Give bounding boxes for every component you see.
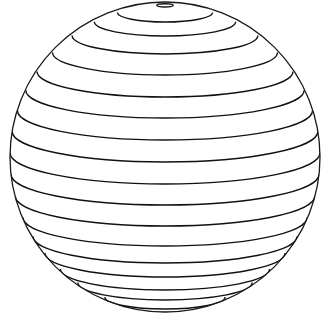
latitude-line xyxy=(105,297,225,309)
latitude-line xyxy=(10,153,320,184)
latitude-line xyxy=(72,35,258,54)
sphere-drawing xyxy=(0,0,330,315)
latitude-line xyxy=(26,90,304,118)
latitude-line xyxy=(12,131,318,162)
sphere-outline xyxy=(10,2,320,312)
latitude-lines xyxy=(10,4,320,309)
latitude-line xyxy=(157,4,174,7)
latitude-line xyxy=(78,283,252,300)
latitude-line xyxy=(53,53,278,75)
latitude-line xyxy=(11,174,319,205)
latitude-line xyxy=(17,110,312,140)
latitude-line xyxy=(117,12,212,22)
latitude-line xyxy=(33,237,297,263)
latitude-line xyxy=(94,22,235,36)
sphere-figure xyxy=(0,0,330,315)
latitude-line xyxy=(23,218,307,246)
latitude-line xyxy=(15,196,315,226)
